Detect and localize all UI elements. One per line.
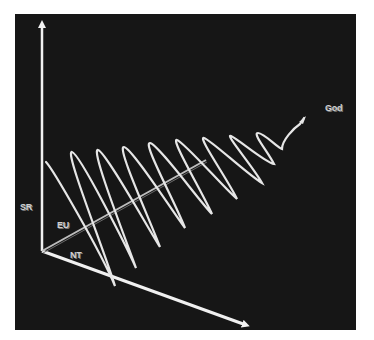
label-sr: SR (20, 202, 32, 212)
label-god: God (325, 103, 342, 113)
helix-curve (46, 118, 304, 286)
label-eu: EU (57, 220, 69, 230)
horizontal-axis (42, 251, 246, 325)
label-nt: NT (70, 250, 81, 260)
helix-diagram (0, 0, 374, 340)
